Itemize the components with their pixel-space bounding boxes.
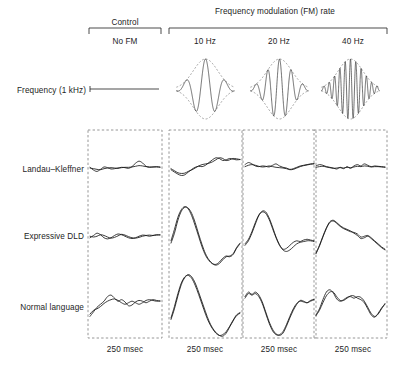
stimulus-waveform <box>250 59 308 116</box>
erp-trace <box>245 292 314 335</box>
bracket-fm-rate <box>169 28 387 34</box>
panel-20hz <box>243 130 316 338</box>
figure-root: Control Frequency modulation (FM) rate N… <box>0 0 403 371</box>
stimulus-envelope <box>321 91 379 119</box>
stimulus-envelope <box>176 91 234 119</box>
erp-trace <box>245 294 314 336</box>
erp-trace <box>316 220 385 253</box>
erp-trace <box>316 221 385 254</box>
stimulus-waveform <box>321 59 379 118</box>
erp-trace <box>316 290 385 317</box>
stimulus-envelope <box>250 59 308 87</box>
erp-trace <box>171 275 240 337</box>
erp-trace <box>171 207 240 265</box>
erp-trace-layer <box>90 158 385 337</box>
stimulus-waveform-layer <box>176 59 379 119</box>
erp-trace <box>245 211 314 252</box>
erp-trace <box>316 292 385 318</box>
stimulus-no-fm <box>90 86 159 92</box>
figure-canvas <box>0 0 403 371</box>
stimulus-envelope <box>250 91 308 119</box>
panel-40hz <box>314 130 387 338</box>
erp-trace <box>245 164 314 170</box>
erp-trace <box>90 295 160 316</box>
bracket-control <box>89 28 161 34</box>
erp-trace <box>171 158 240 176</box>
stimulus-envelope <box>176 59 234 87</box>
erp-trace <box>90 233 160 239</box>
panel-10hz <box>169 130 242 338</box>
stimulus-waveform <box>176 59 234 111</box>
